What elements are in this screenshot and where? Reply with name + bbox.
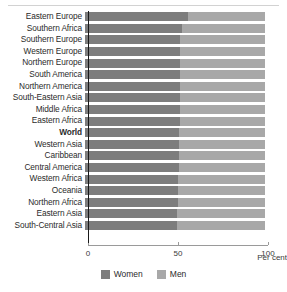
bar-segment-men — [182, 24, 265, 33]
bar-track — [85, 35, 265, 44]
category-label: Northern Africa — [0, 197, 85, 209]
bar-track — [85, 82, 265, 91]
plot-area: Eastern EuropeSouthern AfricaSouthern Eu… — [0, 11, 287, 243]
bar-segment-women — [85, 105, 180, 114]
bar-track — [85, 198, 265, 207]
x-axis-tick-label: 50 — [174, 249, 183, 258]
chart-row: World — [0, 127, 287, 139]
bar-track — [85, 140, 265, 149]
chart-row: Western Africa — [0, 173, 287, 185]
category-label: Western Europe — [0, 46, 85, 58]
chart-legend: WomenMen — [0, 269, 287, 279]
x-axis-tick — [178, 242, 179, 245]
axis-unit-label: Per cent — [257, 253, 287, 262]
bar-segment-women — [85, 82, 180, 91]
bar-segment-women — [85, 47, 180, 56]
bar-segment-women — [85, 175, 178, 184]
chart-row: Western Asia — [0, 139, 287, 151]
chart-row: Middle Africa — [0, 104, 287, 116]
bar-segment-women — [85, 35, 180, 44]
category-label: Eastern Europe — [0, 11, 85, 23]
bar-track — [85, 12, 265, 21]
chart-row: Western Europe — [0, 46, 287, 58]
chart-row: Caribbean — [0, 150, 287, 162]
chart-row: Eastern Africa — [0, 115, 287, 127]
bar-segment-women — [85, 128, 179, 137]
chart-row: Eastern Europe — [0, 11, 287, 23]
bar-segment-men — [180, 59, 265, 68]
bar-segment-women — [85, 140, 179, 149]
chart-row: Northern Africa — [0, 197, 287, 209]
bar-segment-women — [85, 163, 179, 172]
category-label: South-Eastern Asia — [0, 92, 85, 104]
category-label: Middle Africa — [0, 104, 85, 116]
bar-track — [85, 221, 265, 230]
chart-row: South-Central Asia — [0, 220, 287, 232]
legend-item[interactable]: Men — [157, 269, 187, 279]
bar-segment-men — [180, 35, 265, 44]
category-label: Southern Europe — [0, 34, 85, 46]
category-label: Northern Europe — [0, 57, 85, 69]
bar-segment-men — [177, 221, 265, 230]
fifty-percent-reference-line — [88, 11, 89, 243]
bar-segment-women — [85, 209, 177, 218]
category-label: South-Central Asia — [0, 220, 85, 232]
bar-segment-men — [180, 93, 266, 102]
bar-segment-men — [180, 117, 266, 126]
bar-segment-women — [85, 151, 179, 160]
bar-segment-men — [180, 47, 265, 56]
bar-segment-men — [177, 209, 265, 218]
bar-track — [85, 105, 265, 114]
chart-row: Central America — [0, 162, 287, 174]
bar-segment-women — [85, 93, 180, 102]
bar-segment-men — [179, 151, 265, 160]
bar-segment-men — [188, 12, 265, 21]
x-axis-tick-label: 0 — [86, 249, 90, 258]
bar-segment-men — [180, 82, 266, 91]
category-label: Southern Africa — [0, 23, 85, 35]
bar-segment-women — [85, 12, 188, 21]
x-axis: 050100 — [88, 245, 268, 246]
bar-segment-men — [179, 140, 265, 149]
bar-segment-men — [180, 105, 266, 114]
legend-label: Men — [170, 269, 187, 279]
bar-track — [85, 175, 265, 184]
bar-track — [85, 59, 265, 68]
bar-segment-women — [85, 198, 178, 207]
chart-row: Northern Europe — [0, 57, 287, 69]
bar-segment-women — [85, 117, 180, 126]
bar-track — [85, 24, 265, 33]
chart-row: Northern America — [0, 81, 287, 93]
bar-segment-women — [85, 221, 177, 230]
bar-track — [85, 151, 265, 160]
category-label: World — [0, 127, 85, 139]
bar-track — [85, 70, 265, 79]
category-label: Caribbean — [0, 150, 85, 162]
bar-segment-men — [179, 128, 265, 137]
bar-track — [85, 163, 265, 172]
category-label: Oceania — [0, 185, 85, 197]
chart-row: South America — [0, 69, 287, 81]
legend-swatch-icon — [101, 270, 110, 279]
stacked-bar-chart: Eastern EuropeSouthern AfricaSouthern Eu… — [0, 0, 287, 292]
legend-item[interactable]: Women — [101, 269, 143, 279]
chart-row: South-Eastern Asia — [0, 92, 287, 104]
legend-label: Women — [114, 269, 143, 279]
bar-segment-men — [178, 175, 265, 184]
category-label: Western Africa — [0, 173, 85, 185]
bar-segment-women — [85, 59, 180, 68]
bar-track — [85, 209, 265, 218]
bar-segment-men — [178, 198, 265, 207]
bar-segment-men — [179, 163, 265, 172]
chart-row: Southern Europe — [0, 34, 287, 46]
category-label: Northern America — [0, 81, 85, 93]
bar-track — [85, 93, 265, 102]
bar-track — [85, 47, 265, 56]
x-axis-tick — [268, 242, 269, 245]
legend-swatch-icon — [157, 270, 166, 279]
bar-segment-men — [180, 70, 266, 79]
chart-row: Oceania — [0, 185, 287, 197]
category-label: Central America — [0, 162, 85, 174]
bar-segment-women — [85, 70, 180, 79]
chart-row: Southern Africa — [0, 23, 287, 35]
